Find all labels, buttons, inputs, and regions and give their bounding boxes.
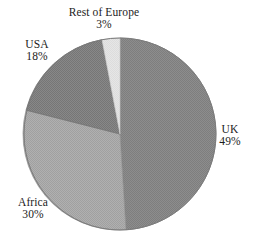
pie-label-uk-percent: 49%: [204, 135, 256, 147]
pie-chart: Rest of Europe 3% USA 18% Africa 30% UK …: [0, 0, 260, 246]
pie-label-africa-name: Africa: [2, 196, 64, 208]
pie-label-uk: UK 49%: [204, 123, 256, 148]
pie-slice-uk[interactable]: [120, 38, 216, 230]
pie-label-rest-of-europe-percent: 3%: [52, 18, 156, 30]
pie-label-africa-percent: 30%: [2, 208, 64, 220]
pie-label-usa-name: USA: [6, 38, 68, 50]
pie-label-rest-of-europe: Rest of Europe 3%: [52, 6, 156, 31]
pie-label-africa: Africa 30%: [2, 196, 64, 221]
pie-label-usa-percent: 18%: [6, 50, 68, 62]
pie-label-usa: USA 18%: [6, 38, 68, 63]
pie-label-rest-of-europe-name: Rest of Europe: [52, 6, 156, 18]
pie-label-uk-name: UK: [204, 123, 256, 135]
